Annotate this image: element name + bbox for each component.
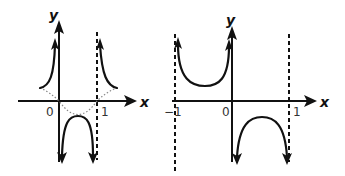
left-lower-branch — [62, 116, 93, 156]
left-graph: y x 0 1 — [18, 7, 150, 164]
right-lower-branch — [237, 117, 287, 157]
right-tick-zero: 0 — [222, 105, 230, 119]
left-upper-right-branch — [100, 45, 117, 88]
right-x-label: x — [319, 94, 330, 110]
left-x-label: x — [139, 94, 150, 110]
left-upper-left-branch — [40, 45, 55, 88]
left-tick-one: 1 — [101, 105, 109, 119]
right-graph: y x −1 0 1 — [164, 12, 330, 174]
right-tick-minus-one: −1 — [164, 105, 182, 119]
right-tick-one: 1 — [293, 105, 301, 119]
right-upper-branch — [178, 44, 229, 86]
right-y-label: y — [226, 12, 236, 28]
left-y-label: y — [49, 7, 59, 23]
figure: y x 0 1 y x −1 0 1 — [0, 0, 345, 176]
left-tick-zero: 0 — [46, 105, 54, 119]
